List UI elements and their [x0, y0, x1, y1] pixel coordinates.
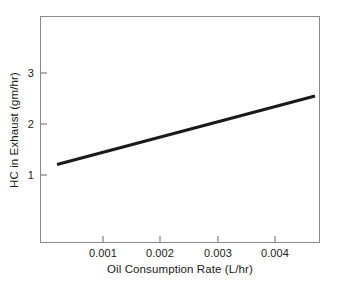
y-tick-label: 1: [28, 169, 34, 181]
chart-figure: 0.001 0.002 0.003 0.004 3 2 1 Oil Consum…: [0, 0, 339, 284]
x-axis-title: Oil Consumption Rate (L/hr): [107, 263, 253, 275]
y-tick-label: 2: [28, 118, 34, 130]
y-axis-title: HC in Exhaust (gm/hr): [8, 72, 20, 188]
plot-canvas: [0, 0, 339, 284]
data-series-line: [57, 96, 315, 165]
x-tick-label: 0.004: [261, 247, 289, 259]
x-tick-label: 0.003: [204, 247, 232, 259]
x-tick-label: 0.001: [89, 247, 117, 259]
y-axis-ticks: [40, 73, 47, 175]
x-tick-label: 0.002: [146, 247, 174, 259]
trend-line: [57, 96, 315, 165]
y-tick-label: 3: [28, 67, 34, 79]
x-axis-ticks: [103, 236, 275, 243]
